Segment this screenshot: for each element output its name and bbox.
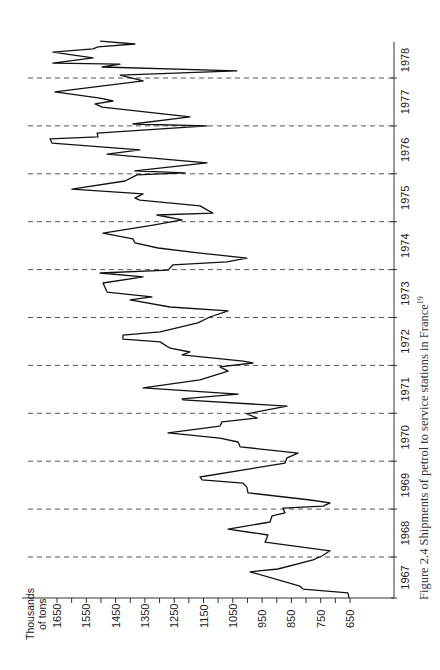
value-tick-label: 650 [344, 610, 356, 628]
year-label: 1968 [399, 521, 411, 545]
year-label: 1970 [399, 425, 411, 449]
year-label: 1977 [399, 90, 411, 114]
y-axis-unit-label: Thousands of tons [24, 588, 48, 640]
series-line [50, 41, 349, 598]
value-tick-label: 1150 [198, 604, 210, 628]
chart: 1650155014501350125011501050950850750650… [0, 0, 440, 670]
figure-caption: Figure 2.4 Shipments of petrol to servic… [416, 296, 431, 600]
caption-superscript: 19 [416, 296, 425, 304]
value-tick-label: 850 [285, 610, 297, 628]
value-tick-label: 750 [315, 610, 327, 628]
value-tick-label: 1650 [51, 604, 63, 628]
value-tick-label: 1550 [80, 604, 92, 628]
series-layer [50, 41, 349, 598]
year-label: 1975 [399, 186, 411, 210]
year-label: 1978 [399, 48, 411, 72]
year-boundary-gridlines [28, 78, 394, 557]
year-label: 1969 [399, 473, 411, 497]
year-label: 1976 [399, 138, 411, 162]
year-label: 1973 [399, 281, 411, 305]
caption-title: Figure 2.4 Shipments of petrol to servic… [417, 304, 431, 600]
value-tick-label: 1450 [110, 604, 122, 628]
value-tick-label: 1350 [139, 604, 151, 628]
year-label: 1971 [399, 377, 411, 401]
caption-text: Figure 2.4 Shipments of petrol to servic… [416, 296, 431, 600]
tick-labels: 1650155014501350125011501050950850750650… [51, 48, 411, 628]
value-tick-label: 1050 [227, 604, 239, 628]
year-label: 1974 [399, 233, 411, 257]
year-label: 1967 [399, 565, 411, 589]
value-tick-label: 950 [256, 610, 268, 628]
value-tick-label: 1250 [168, 604, 180, 628]
year-label: 1972 [399, 329, 411, 353]
unit-label-line-1: Thousands [24, 588, 36, 640]
unit-label-line-2: of tons [36, 598, 48, 630]
